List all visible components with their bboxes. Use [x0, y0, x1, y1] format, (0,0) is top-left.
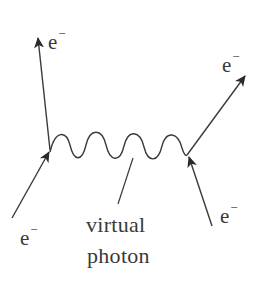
particle-charge: −	[58, 26, 65, 41]
particle-symbol: e	[48, 30, 57, 54]
feynman-diagram: e− e− e− e− virtual photon	[0, 0, 265, 282]
particle-charge: −	[230, 200, 237, 215]
label-electron-out-right: e−	[222, 53, 240, 76]
particle-charge: −	[232, 49, 239, 64]
particle-symbol: e	[222, 53, 231, 77]
photon-wave	[50, 132, 187, 159]
photon-label-pointer	[118, 158, 133, 204]
photon-label-line1: virtual	[86, 214, 146, 236]
photon-label-line2: photon	[87, 245, 150, 267]
diagram-lines	[0, 0, 265, 282]
label-electron-in-right: e−	[220, 204, 238, 227]
particle-symbol: e	[20, 226, 29, 250]
electron-line-in-right	[189, 157, 212, 226]
particle-symbol: e	[220, 204, 229, 228]
label-electron-out-left: e−	[48, 30, 66, 53]
electron-line-out-right	[187, 76, 245, 155]
particle-charge: −	[30, 222, 37, 237]
label-electron-in-left: e−	[20, 226, 38, 249]
electron-line-out-left	[38, 38, 50, 150]
electron-line-in-left	[12, 152, 49, 218]
